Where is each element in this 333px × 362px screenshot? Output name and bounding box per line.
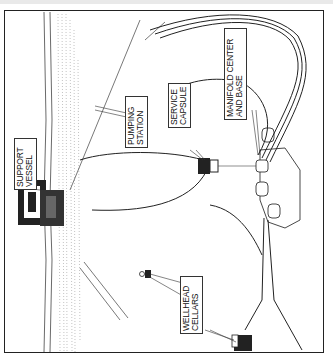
diagram-artwork xyxy=(0,0,333,362)
label-line: AND BASE xyxy=(235,31,244,117)
service-capsule-shape xyxy=(198,158,218,174)
label-pumping-station: PUMPING STATION xyxy=(125,96,148,148)
label-service-capsule: SERVICE CAPSULE xyxy=(168,83,191,128)
wellhead-cellar-large xyxy=(232,335,252,351)
manifold-center-shape xyxy=(256,128,300,228)
label-line: STATION xyxy=(136,99,145,145)
label-manifold-center: MANIFOLD CENTER AND BASE xyxy=(224,28,247,120)
label-line: CAPSULE xyxy=(179,86,188,125)
label-line: VESSEL xyxy=(25,141,34,187)
service-hose-loop xyxy=(80,153,207,211)
label-line: CELLARS xyxy=(191,279,200,331)
sea-texture xyxy=(58,14,80,352)
label-wellhead-cellars: WELLHEAD CELLARS xyxy=(180,276,203,334)
label-support-vessel: SUPPORT VESSEL xyxy=(14,138,37,190)
